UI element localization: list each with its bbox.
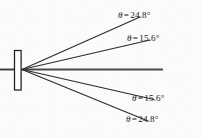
angle-value: 15.6°	[144, 93, 164, 103]
label-theta-bottom-inner: θ=15.6°	[132, 94, 165, 103]
ray-top-inner	[22, 40, 150, 70]
diffraction-figure: θ=24.8° θ=15.6° θ=15.6° θ=24.8°	[0, 0, 201, 138]
theta-symbol: θ	[118, 10, 123, 20]
theta-symbol: θ	[127, 33, 132, 43]
angle-value: 24.8°	[138, 114, 158, 124]
label-theta-bottom-outer: θ=24.8°	[126, 115, 159, 124]
slit-aperture	[15, 51, 22, 91]
slit-rectangle	[15, 51, 22, 91]
angle-value: 24.8°	[130, 10, 150, 20]
angle-value: 15.6°	[139, 33, 159, 43]
theta-symbol: θ	[126, 114, 131, 124]
label-theta-top-outer: θ=24.8°	[118, 11, 151, 20]
ray-top-outer	[22, 17, 140, 70]
label-theta-top-inner: θ=15.6°	[127, 34, 160, 43]
figure-canvas	[0, 0, 201, 138]
theta-symbol: θ	[132, 93, 137, 103]
